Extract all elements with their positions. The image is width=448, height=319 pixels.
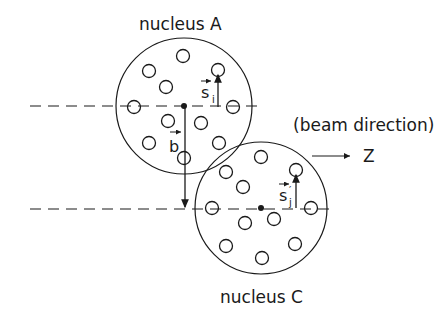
glauber-collision-diagram: nucleus A nucleus C (beam direction) Z b… [0,0,448,319]
svg-text:s: s [201,83,209,102]
s-i-label: s i [201,81,215,105]
nucleus-a-label: nucleus A [139,14,222,34]
svg-text:j: j [288,197,292,208]
nucleus-c [195,142,327,274]
z-axis-label: Z [363,146,375,166]
svg-text:′: ′ [289,185,292,196]
svg-text:b: b [169,137,179,156]
s-j-label: s ′ j [279,184,292,208]
impact-parameter-label: b [169,132,181,156]
svg-text:s: s [279,186,287,205]
svg-text:i: i [212,94,215,105]
nucleus-c-label: nucleus C [220,287,303,307]
beam-direction-label: (beam direction) [293,115,434,135]
center-dot-c [258,205,264,211]
